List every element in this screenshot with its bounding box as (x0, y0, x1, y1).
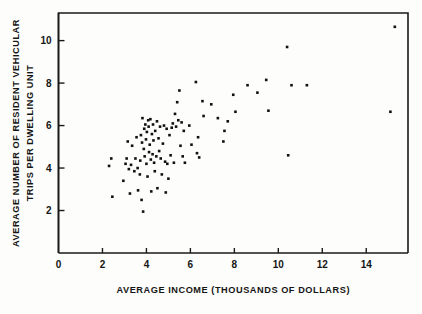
x-tick-label: 4 (144, 259, 150, 270)
data-point (142, 210, 145, 213)
data-point (202, 115, 205, 118)
data-point (133, 170, 136, 173)
data-point (173, 161, 176, 164)
data-point (129, 192, 132, 195)
data-point (156, 120, 159, 123)
y-tick-label: 6 (46, 120, 52, 131)
data-point (150, 158, 153, 161)
data-point (172, 122, 175, 125)
data-point (175, 125, 178, 128)
data-point (164, 191, 167, 194)
data-point (149, 118, 152, 121)
data-point (265, 79, 268, 82)
data-point (226, 120, 229, 123)
scatter-plot-figure: 02468101214 246810 AVERAGE INCOME (THOUS… (0, 0, 422, 314)
data-point (145, 138, 148, 141)
data-point (287, 154, 290, 157)
data-point (128, 168, 131, 171)
data-point (256, 91, 259, 94)
data-point (180, 121, 183, 124)
x-tick-label: 10 (273, 259, 285, 270)
data-point (155, 155, 158, 158)
data-point (167, 177, 170, 180)
plot-frame (59, 13, 409, 253)
data-point (210, 103, 213, 106)
data-point (145, 162, 148, 165)
data-points-layer (108, 26, 396, 213)
data-point (131, 144, 134, 147)
data-point (190, 143, 193, 146)
data-point (139, 173, 142, 176)
data-point (126, 140, 129, 143)
data-point (170, 126, 173, 129)
data-point (152, 139, 155, 142)
data-point (246, 84, 249, 87)
data-point (162, 142, 165, 145)
data-point (143, 127, 146, 130)
data-point (141, 117, 144, 120)
data-point (166, 162, 169, 165)
data-point (159, 157, 162, 160)
data-point (217, 117, 220, 120)
plot-frame-border (59, 13, 409, 253)
data-point (148, 143, 151, 146)
x-axis-title: AVERAGE INCOME (THOUSANDS OF DOLLARS) (116, 285, 350, 295)
y-tick-label: 10 (40, 35, 52, 46)
data-point (232, 93, 235, 96)
data-point (174, 113, 177, 116)
data-point (389, 110, 392, 113)
data-point (108, 165, 111, 168)
data-point (156, 187, 159, 190)
scatter-plot-svg: 02468101214 246810 AVERAGE INCOME (THOUS… (0, 0, 422, 314)
y-axis-title-line1: AVERAGE NUMBER OF RESIDENT VEHICULAR (11, 19, 21, 247)
data-point (135, 136, 138, 139)
data-point (110, 157, 113, 160)
x-tick-label: 6 (188, 259, 194, 270)
data-point (222, 140, 225, 143)
data-point (176, 101, 179, 104)
data-point (140, 134, 143, 137)
data-point (165, 127, 168, 130)
data-point (201, 100, 204, 103)
data-point (142, 148, 145, 151)
data-point (306, 84, 309, 87)
data-point (168, 134, 171, 137)
data-point (198, 156, 201, 159)
data-point (197, 136, 200, 139)
data-point (290, 84, 293, 87)
data-point (195, 81, 198, 84)
y-tick-label: 8 (46, 78, 52, 89)
data-point (158, 150, 161, 153)
x-tick-label: 14 (361, 259, 373, 270)
data-point (267, 109, 270, 112)
data-point (394, 26, 397, 29)
data-point (177, 119, 180, 122)
data-point (151, 153, 154, 156)
data-point (111, 195, 114, 198)
data-point (124, 162, 127, 165)
y-tick-label: 2 (46, 205, 52, 216)
data-point (147, 125, 150, 128)
data-point (234, 110, 237, 113)
data-point (137, 189, 140, 192)
data-point (153, 161, 156, 164)
data-point (144, 123, 147, 126)
data-point (122, 179, 125, 182)
data-point (181, 155, 184, 158)
data-point (151, 133, 154, 136)
data-point (143, 155, 146, 158)
data-point (163, 124, 166, 127)
data-point (146, 175, 149, 178)
x-tick-label: 12 (317, 259, 329, 270)
data-point (148, 151, 151, 154)
data-point (196, 152, 199, 155)
data-point (140, 199, 143, 202)
y-axis-title-line2: TRIPS PER DWELLING UNIT (25, 65, 35, 202)
data-point (286, 46, 289, 49)
data-point (223, 130, 226, 133)
data-point (153, 170, 156, 173)
data-point (179, 144, 182, 147)
data-point (159, 125, 162, 128)
data-point (141, 141, 144, 144)
data-point (136, 167, 139, 170)
